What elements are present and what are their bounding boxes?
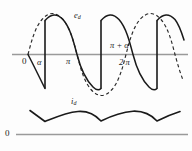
alpha-label: α <box>37 58 41 67</box>
waveform-figure: 0 α π π + α 2 π ed id 0 <box>0 0 192 151</box>
waveform-plot <box>0 0 192 151</box>
voltage-segment-2 <box>45 15 101 90</box>
voltage-segment-4 <box>157 15 184 40</box>
current-waveform <box>30 111 180 122</box>
current-subscript: d <box>73 100 76 106</box>
two-pi-label: 2 π <box>119 58 130 67</box>
voltage-subscript: d <box>78 14 81 20</box>
voltage-waveform-label: ed <box>74 11 81 20</box>
current-waveform-label: id <box>71 97 76 106</box>
voltage-segment-3 <box>101 15 157 90</box>
origin-label: 0 <box>22 57 27 66</box>
pi-plus-alpha-label: π + α <box>110 41 129 50</box>
pi-label: π <box>66 57 70 66</box>
current-zero-label: 0 <box>5 129 10 138</box>
